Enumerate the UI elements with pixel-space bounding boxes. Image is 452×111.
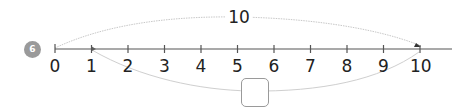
tick-label-2: 2 [118, 56, 138, 76]
problem-number-badge: 6 [24, 41, 41, 58]
number-line-diagram: 6 10 0 1 2 3 4 5 6 7 8 9 10 [0, 0, 452, 111]
top-arc-label: 10 [226, 7, 252, 27]
tick-label-3: 3 [155, 56, 175, 76]
tick-label-0: 0 [45, 56, 65, 76]
tick-label-1: 1 [82, 56, 102, 76]
answer-box[interactable] [241, 78, 269, 107]
tick-label-7: 7 [301, 56, 321, 76]
tick-label-8: 8 [337, 56, 357, 76]
tick-label-6: 6 [264, 56, 284, 76]
tick-label-10: 10 [410, 56, 430, 76]
tick-label-9: 9 [374, 56, 394, 76]
tick-label-4: 4 [191, 56, 211, 76]
tick-label-5: 5 [228, 56, 248, 76]
